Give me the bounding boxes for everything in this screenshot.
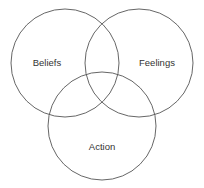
- label-feelings: Feelings: [139, 57, 175, 68]
- venn-diagram: Beliefs Feelings Action: [0, 0, 204, 188]
- label-action: Action: [89, 141, 115, 152]
- circle-beliefs: [11, 9, 119, 117]
- label-beliefs: Beliefs: [33, 57, 62, 68]
- circle-action: [48, 72, 156, 180]
